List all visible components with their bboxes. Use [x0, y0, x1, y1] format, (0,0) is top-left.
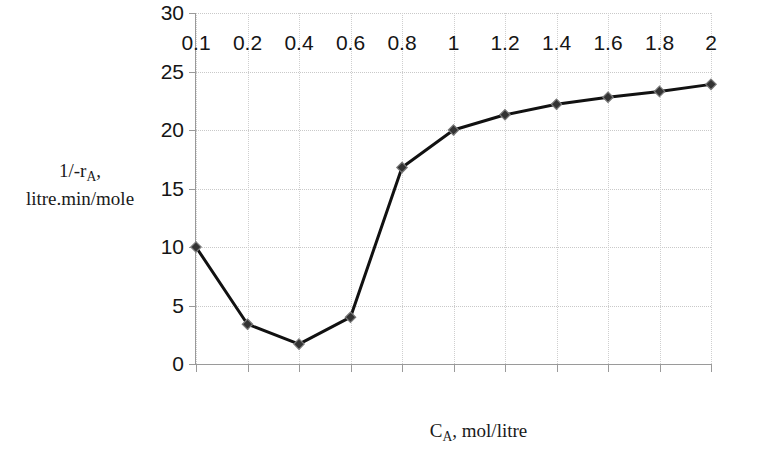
data-point-2 [706, 79, 716, 89]
data-point-1.6 [603, 92, 613, 102]
x-tick-1.8 [660, 364, 661, 372]
y-tick-label-25: 25 [124, 61, 184, 82]
x-tick-1.2 [505, 364, 506, 372]
y-tick-25 [189, 72, 196, 73]
x-tick-0.2 [248, 364, 249, 372]
x-tick-2 [711, 364, 712, 372]
y-tick-label-10: 10 [124, 236, 184, 257]
data-series-line [196, 13, 711, 364]
chart-figure: 1/-rA, litre.min/mole CA, mol/litre 0510… [0, 0, 767, 459]
x-tick-0.8 [402, 364, 403, 372]
y-axis-title-rest: , [96, 160, 101, 181]
series-markers [191, 79, 716, 349]
y-tick-5 [189, 306, 196, 307]
x-axis-title-subscript: A [442, 429, 452, 444]
y-tick-15 [189, 189, 196, 190]
x-tick-1 [454, 364, 455, 372]
y-tick-30 [189, 13, 196, 14]
y-axis-title-main: 1/-r [59, 160, 86, 181]
y-tick-label-15: 15 [124, 178, 184, 199]
y-tick-20 [189, 130, 196, 131]
plot-area: 051015202530 0.10.20.40.60.811.21.41.61.… [196, 13, 711, 364]
x-axis-title-rest: , mol/litre [452, 420, 527, 441]
x-tick-0.6 [351, 364, 352, 372]
x-tick-0.4 [299, 364, 300, 372]
x-tick-1.4 [557, 364, 558, 372]
y-tick-label-0: 0 [124, 353, 184, 374]
y-tick-label-20: 20 [124, 119, 184, 140]
y-tick-label-30: 30 [124, 2, 184, 23]
data-point-1.2 [500, 110, 510, 120]
y-tick-label-5: 5 [124, 295, 184, 316]
x-tick-0.1 [196, 364, 197, 372]
series-polyline [196, 84, 711, 344]
data-point-0.6 [345, 312, 355, 322]
x-axis-title: CA, mol/litre [190, 420, 767, 445]
data-point-1.4 [551, 99, 561, 109]
data-point-1.8 [654, 86, 664, 96]
x-axis-title-main: C [430, 420, 443, 441]
data-point-0.4 [294, 339, 304, 349]
y-axis-title-subscript: A [86, 169, 96, 184]
x-tick-1.6 [608, 364, 609, 372]
y-tick-0 [189, 364, 196, 365]
gridline-x-2 [711, 13, 712, 364]
